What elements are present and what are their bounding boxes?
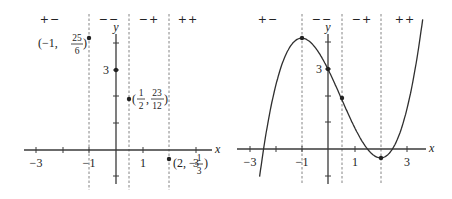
label-local-max: (−1, 25 6 ): [38, 33, 87, 56]
svg-text:1: 1: [197, 153, 202, 163]
sign-label-3: −+: [139, 13, 159, 26]
point-local-max: [300, 36, 304, 40]
point-local-min: [167, 157, 171, 161]
x-axis-label: x: [428, 141, 435, 155]
svg-text:25: 25: [72, 33, 82, 43]
y-tick-label: 3: [316, 62, 322, 76]
sign-label-4: ++: [395, 13, 415, 26]
sign-label-3: −+: [352, 13, 372, 26]
left-graph: +− −− −+ ++ x −3 −1 1 3 y 3: [24, 13, 221, 190]
sign-label-1: +−: [258, 13, 278, 26]
x-tick-label: −1: [83, 156, 96, 170]
x-tick-label: −3: [244, 155, 257, 169]
point-local-min: [379, 156, 383, 160]
svg-text:): ): [83, 36, 87, 50]
label-inflection: ( 1 2 , 23 12 ): [132, 88, 168, 111]
x-tick-label: 1: [140, 156, 146, 170]
svg-text:): ): [164, 92, 168, 106]
sign-label-1: +−: [40, 13, 60, 26]
svg-text:1: 1: [139, 88, 144, 98]
x-tick-label: −3: [30, 156, 43, 170]
svg-text:12: 12: [152, 101, 162, 111]
svg-text:(2, −: (2, −: [173, 156, 196, 170]
diagram-canvas: +− −− −+ ++ x −3 −1 1 3 y 3: [0, 0, 452, 199]
point-local-max: [87, 36, 91, 40]
point-y-intercept: [326, 67, 330, 71]
svg-text:): ): [204, 156, 208, 170]
svg-text:(−1,: (−1,: [38, 36, 58, 50]
svg-text:6: 6: [75, 46, 80, 56]
x-tick-label: 3: [404, 155, 410, 169]
x-tick-label: −1: [296, 155, 309, 169]
sign-label-4: ++: [178, 13, 198, 26]
x-tick-label: 1: [352, 155, 358, 169]
svg-text:23: 23: [152, 88, 162, 98]
label-local-min: (2, − 1 3 ): [173, 153, 208, 176]
right-graph: +− −− −+ ++ x −3 −1 1 3 y 3: [237, 13, 435, 184]
x-axis-label: x: [214, 142, 221, 156]
point-inflection: [127, 97, 131, 101]
point-inflection: [340, 96, 344, 100]
y-axis-label: y: [324, 20, 331, 34]
point-y-intercept: [114, 68, 118, 72]
y-tick-label: 3: [103, 63, 109, 77]
svg-text:2: 2: [139, 101, 144, 111]
svg-text:3: 3: [197, 166, 202, 176]
svg-text:(: (: [132, 92, 136, 106]
y-axis-label: y: [112, 20, 119, 34]
svg-text:,: ,: [146, 92, 149, 106]
